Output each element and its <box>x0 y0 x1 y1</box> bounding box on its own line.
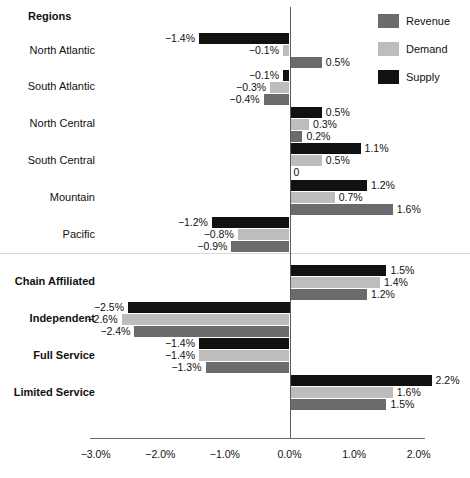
legend-label: Revenue <box>406 16 450 27</box>
legend-label: Supply <box>406 72 440 83</box>
bar-revenue[interactable] <box>134 326 289 337</box>
bar-value-label: 0.2% <box>306 131 330 142</box>
bar-supply[interactable] <box>128 302 290 313</box>
bar-value-label: −2.4% <box>0 326 130 337</box>
bar-revenue[interactable] <box>290 204 393 215</box>
bar-value-label: 1.6% <box>397 387 421 398</box>
bar-value-label: −2.6% <box>0 314 118 325</box>
bar-value-label: 1.1% <box>365 143 389 154</box>
bar-value-label: −1.4% <box>0 338 195 349</box>
x-axis-line <box>90 438 425 439</box>
bar-supply[interactable] <box>199 338 289 349</box>
bar-demand[interactable] <box>290 119 309 130</box>
legend-swatch-demand-icon <box>378 42 399 56</box>
bar-supply[interactable] <box>199 33 289 44</box>
grouped-bar-chart: RevenueDemandSupplyRegionsNorth Atlantic… <box>0 0 470 478</box>
bar-supply[interactable] <box>290 375 432 386</box>
bar-value-label: −1.4% <box>0 33 195 44</box>
legend-item-demand[interactable]: Demand <box>378 38 450 60</box>
bar-revenue[interactable] <box>290 399 387 410</box>
bar-value-label: −0.4% <box>0 94 260 105</box>
bar-value-label: −2.5% <box>0 302 124 313</box>
bar-value-label: 0.7% <box>339 192 363 203</box>
bar-value-label: 2.2% <box>436 375 460 386</box>
bar-value-label: 1.2% <box>371 180 395 191</box>
bar-revenue[interactable] <box>290 289 368 300</box>
legend-item-supply[interactable]: Supply <box>378 66 450 88</box>
category-label: Chain Affiliated <box>0 275 95 287</box>
bar-supply[interactable] <box>212 217 290 228</box>
bar-value-label: 0 <box>294 167 300 178</box>
x-axis-tick <box>290 434 291 438</box>
bar-value-label: −1.3% <box>0 362 202 373</box>
legend-item-revenue[interactable]: Revenue <box>378 10 450 32</box>
category-label: Limited Service <box>0 386 95 398</box>
bar-value-label: 1.5% <box>390 399 414 410</box>
bar-demand[interactable] <box>290 387 393 398</box>
category-label: North Central <box>0 117 95 129</box>
section-divider <box>0 253 470 254</box>
bar-demand[interactable] <box>290 155 322 166</box>
legend-label: Demand <box>406 44 448 55</box>
bar-value-label: 0.3% <box>313 119 337 130</box>
bar-revenue[interactable] <box>290 131 303 142</box>
bar-demand[interactable] <box>238 229 290 240</box>
bar-supply[interactable] <box>290 265 387 276</box>
bar-value-label: 1.5% <box>390 265 414 276</box>
bar-value-label: −0.8% <box>0 229 234 240</box>
section-header-regions: Regions <box>28 10 71 22</box>
bar-value-label: 0.5% <box>326 107 350 118</box>
bar-value-label: 1.2% <box>371 289 395 300</box>
bar-supply[interactable] <box>290 180 368 191</box>
category-label: Mountain <box>0 191 95 203</box>
bar-supply[interactable] <box>290 107 322 118</box>
bar-demand[interactable] <box>122 314 290 325</box>
bar-demand[interactable] <box>199 350 289 361</box>
bar-revenue[interactable] <box>206 362 290 373</box>
bar-value-label: 0.5% <box>326 57 350 68</box>
bar-value-label: −0.9% <box>0 241 227 252</box>
bar-demand[interactable] <box>270 82 289 93</box>
bar-value-label: 1.6% <box>397 204 421 215</box>
bar-revenue[interactable] <box>231 241 289 252</box>
bar-value-label: −0.1% <box>0 70 279 81</box>
zero-axis-line <box>290 7 291 438</box>
bar-value-label: −1.4% <box>0 350 195 361</box>
legend-swatch-revenue-icon <box>378 14 399 28</box>
bar-revenue[interactable] <box>290 57 322 68</box>
bar-revenue[interactable] <box>264 94 290 105</box>
legend-swatch-supply-icon <box>378 70 399 84</box>
chart-legend: RevenueDemandSupply <box>378 10 450 94</box>
x-axis-tick-label: 2.0% <box>379 448 459 460</box>
bar-demand[interactable] <box>290 277 380 288</box>
bar-value-label: 1.4% <box>384 277 408 288</box>
bar-value-label: 0.5% <box>326 155 350 166</box>
bar-value-label: −0.3% <box>0 82 266 93</box>
bar-demand[interactable] <box>290 192 335 203</box>
category-label: South Central <box>0 154 95 166</box>
bar-supply[interactable] <box>290 143 361 154</box>
bar-value-label: −1.2% <box>0 217 208 228</box>
bar-value-label: −0.1% <box>0 45 279 56</box>
